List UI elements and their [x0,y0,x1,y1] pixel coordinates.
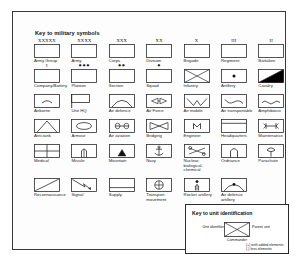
symbol-graphic [70,173,107,192]
symbol-cell: Unit HQ [70,89,107,114]
symbol-caption: Transport movement [145,193,182,203]
symbol-graphic: ●●● [70,64,107,83]
plain-box-icon [109,44,135,58]
symbol-cell: XXXXArmy [70,39,107,64]
air-force-wings-icon [146,94,172,108]
plain-box-icon [109,69,135,83]
symbol-graphic: X [183,39,220,58]
legend-title: Key to military symbols [35,30,100,36]
symbol-caption: Missile [70,159,107,164]
symbol-caption: Rocket artillery [183,193,220,198]
symbol-caption: Medical [33,159,70,164]
symbol-graphic [220,89,257,108]
symbol-caption: Mountain [108,159,145,164]
echelon-marker: XXXXX [34,38,60,43]
echelon-marker: XX [146,38,172,43]
echelon-marker: II [258,38,284,43]
inset-label-unit-identifier: Unit identifier [200,225,224,229]
symbol-caption: Ordnance [220,159,257,164]
symbol-graphic [183,89,220,108]
symbol-cell: ●●●Platoon [70,64,107,89]
symbol-graphic [145,114,182,133]
symbol-row: ICompany/Battery●●●Platoon●●Section●Squa… [33,64,295,89]
echelon-marker: ●● [109,63,135,68]
symbol-caption: Parachute [257,159,294,164]
engineer-m-icon [184,119,210,133]
anti-tank-triangle-icon [34,119,60,133]
inset-label-parent-unit: Parent unit [252,225,278,229]
symbol-graphic: ●● [108,64,145,83]
symbol-cell: Medical [33,139,70,174]
symbol-cell: Navy [145,139,182,174]
symbol-cell: Cavalry [257,64,294,89]
artillery-dot-icon [221,69,247,83]
symbol-cell: Rocket artillery [183,173,220,203]
echelon-marker: I [34,63,60,68]
symbol-graphic [33,173,70,192]
symbol-graphic [220,139,257,158]
plain-box-icon [146,44,172,58]
armour-ellipse-icon [71,119,97,133]
symbol-cell: XBrigade [183,39,220,64]
signal-lightning-icon [71,178,97,192]
symbol-cell: Nuclear, biological, chemical [183,139,220,174]
symbol-caption: Navy [145,159,182,164]
recon-diagonal-up-icon [34,178,60,192]
symbol-graphic [183,64,220,83]
symbol-row: Anti-tankArmourAir aviationBridgingEngin… [33,114,295,139]
symbol-graphic [220,114,257,133]
symbol-graphic: ● [145,64,182,83]
symbol-row: ReconnaissanceSignalSupplyTransport move… [33,173,295,203]
symbol-cell: Armour [70,114,107,139]
inset-unit-symbol-icon [224,222,250,237]
symbol-cell: Mountain [108,139,145,174]
symbol-graphic [145,89,182,108]
inset-label-commander: Commander [216,238,258,242]
symbol-cell: Air aviation [108,114,145,139]
symbol-cell: Missile [70,139,107,174]
symbol-cell: ICompany/Battery [33,64,70,89]
symbol-graphic [108,139,145,158]
air-aviation-propeller-icon [109,119,135,133]
plain-box-icon [34,44,60,58]
symbol-graphic [108,173,145,192]
mountain-peak-icon [109,144,135,158]
symbol-caption: Supply [108,193,145,198]
symbol-graphic [220,173,257,192]
ordnance-bomb-icon [221,144,247,158]
symbol-cell: Maintenance [257,114,294,139]
plain-box-icon [146,69,172,83]
legend-outer-frame: Key to military symbols XXXXXArmy GroupX… [12,11,286,250]
symbol-caption: Reconnaissance [33,193,70,198]
unit-identification-inset: Key to unit identification Unit identifi… [185,204,289,254]
echelon-marker: ● [146,63,172,68]
symbol-graphic [183,139,220,158]
symbol-graphic [145,173,182,192]
cavalry-diagonal-fill-icon [258,69,284,83]
symbol-cell: Amphibious [257,89,294,114]
symbol-graphic [220,64,257,83]
inset-notes: (+) with added elements (-) less element… [246,243,283,251]
plain-box-icon [34,69,60,83]
symbol-cell: ●●Section [108,64,145,89]
symbol-graphic: I [33,64,70,83]
symbol-cell: Transport movement [145,173,182,203]
airborne-arc-icon [34,94,60,108]
symbol-row: MedicalMissileMountainNavyNuclear, biolo… [33,139,295,174]
rocket-artillery-icon [184,178,210,192]
air-transportable-wave-icon [221,94,247,108]
unit-hq-flag-icon [71,94,97,108]
symbol-cell: Signal [70,173,107,203]
symbol-cell: XXXCorps [108,39,145,64]
symbol-cell: Air transportable [220,89,257,114]
symbol-cell: Ordnance [220,139,257,174]
air-mobile-v-icon [184,94,210,108]
symbol-caption: Nuclear, biological, chemical [183,159,220,174]
symbol-graphic [108,89,145,108]
symbol-graphic: XXXX [70,39,107,58]
inset-note-less-elements: (-) less elements [246,247,283,251]
symbol-cell: XXXXXArmy Group [33,39,70,64]
symbol-graphic [257,114,294,133]
symbol-cell: Air Force [145,89,182,114]
plain-box-icon [71,69,97,83]
